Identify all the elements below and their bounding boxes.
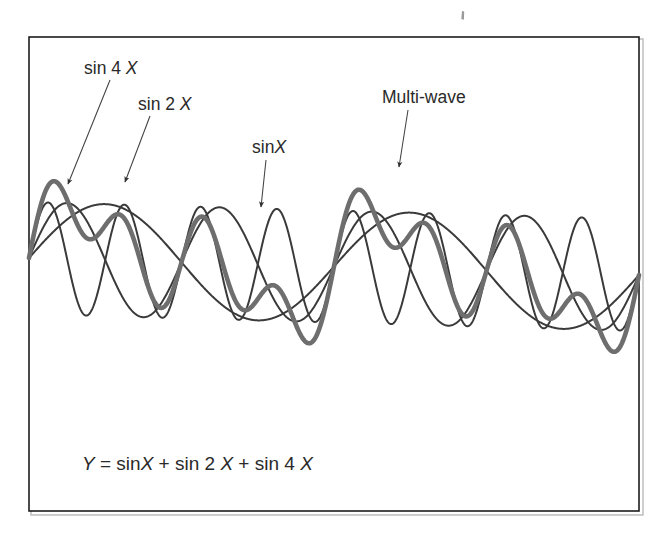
multi-wave-figure: sin 4 X sin 2 X sinX Multi-wave Y = sinX… (0, 0, 666, 536)
label-sin-2x: sin 2 X (138, 94, 193, 114)
label-sin-4x: sin 4 X (84, 58, 139, 78)
stray-ink-mark (461, 11, 464, 20)
label-multi-wave: Multi-wave (382, 87, 466, 107)
label-sin-x: sinX (252, 137, 287, 157)
equation-caption: Y = sinX + sin 2 X + sin 4 X (82, 453, 314, 474)
